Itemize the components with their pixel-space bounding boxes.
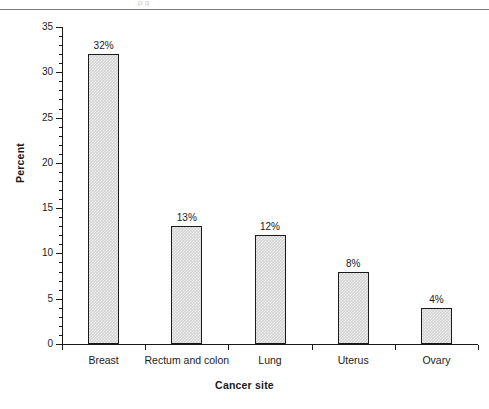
y-axis-tick-label: 35: [42, 22, 53, 32]
y-axis-minor-tick: [59, 290, 62, 291]
bar-value-label: 8%: [346, 258, 360, 269]
y-axis-minor-tick: [59, 81, 62, 82]
y-axis-minor-tick: [59, 244, 62, 245]
bar: 12%: [255, 235, 286, 344]
y-axis-minor-tick: [59, 90, 62, 91]
y-axis-major-tick: [56, 118, 62, 119]
top-cropped-text-fragment: p g: [138, 0, 228, 6]
y-axis-minor-tick: [59, 181, 62, 182]
y-axis-minor-tick: [59, 199, 62, 200]
x-axis-line: [62, 344, 478, 345]
y-axis-minor-tick: [59, 172, 62, 173]
y-axis-minor-tick: [59, 281, 62, 282]
y-axis-major-tick: [56, 253, 62, 254]
y-axis-tick-label: 30: [42, 67, 53, 77]
bar: 32%: [88, 54, 119, 344]
bar: 13%: [171, 226, 202, 344]
y-axis-tick-label: 25: [42, 113, 53, 123]
bar-value-label: 4%: [429, 294, 443, 305]
y-axis-minor-tick: [59, 136, 62, 137]
plot-area: 05101520253035 32%13%12%8%4% BreastRectu…: [62, 27, 478, 344]
y-axis-minor-tick: [59, 335, 62, 336]
y-axis-minor-tick: [59, 109, 62, 110]
y-axis-title: Percent: [14, 143, 26, 183]
y-axis-tick-label: 5: [47, 294, 53, 304]
x-axis-category-label: Lung: [258, 354, 281, 366]
x-axis-category-label: Uterus: [338, 354, 369, 366]
y-axis-minor-tick: [59, 262, 62, 263]
y-axis-minor-tick: [59, 54, 62, 55]
x-axis-tick: [395, 345, 396, 350]
bar-chart-figure: p g Percent Cancer site 05101520253035 3…: [0, 0, 489, 409]
x-axis-category-label: Breast: [88, 354, 118, 366]
y-axis-minor-tick: [59, 145, 62, 146]
y-axis-minor-tick: [59, 99, 62, 100]
bar: 4%: [421, 308, 452, 344]
bar: 8%: [338, 272, 369, 344]
y-axis-major-tick: [56, 299, 62, 300]
y-axis-minor-tick: [59, 217, 62, 218]
y-axis-minor-tick: [59, 36, 62, 37]
y-axis-minor-tick: [59, 63, 62, 64]
y-axis-tick-label: 0: [47, 339, 53, 349]
y-axis-major-tick: [56, 27, 62, 28]
bar-value-label: 13%: [177, 212, 197, 223]
y-axis-major-tick: [56, 208, 62, 209]
top-horizontal-rule: [0, 9, 489, 10]
x-axis-tick: [145, 345, 146, 350]
y-axis-minor-tick: [59, 308, 62, 309]
x-axis-tick: [312, 345, 313, 350]
x-axis-tick: [478, 345, 479, 350]
bar-value-label: 32%: [94, 40, 114, 51]
y-axis-major-tick: [56, 163, 62, 164]
y-axis-minor-tick: [59, 317, 62, 318]
y-axis-tick-label: 10: [42, 248, 53, 258]
y-axis-tick-label: 15: [42, 203, 53, 213]
x-axis-category-label: Ovary: [422, 354, 450, 366]
y-axis-minor-tick: [59, 326, 62, 327]
y-axis-minor-tick: [59, 226, 62, 227]
y-axis-minor-tick: [59, 235, 62, 236]
y-axis-line: [62, 27, 63, 345]
x-axis-category-label: Rectum and colon: [144, 354, 229, 366]
y-axis-minor-tick: [59, 154, 62, 155]
y-axis-minor-tick: [59, 127, 62, 128]
y-axis-major-tick: [56, 72, 62, 73]
x-axis-title: Cancer site: [0, 379, 489, 391]
y-axis-tick-label: 20: [42, 158, 53, 168]
x-axis-tick: [228, 345, 229, 350]
y-axis-minor-tick: [59, 45, 62, 46]
y-axis-minor-tick: [59, 272, 62, 273]
bar-value-label: 12%: [260, 221, 280, 232]
x-axis-tick: [62, 345, 63, 350]
y-axis-minor-tick: [59, 190, 62, 191]
